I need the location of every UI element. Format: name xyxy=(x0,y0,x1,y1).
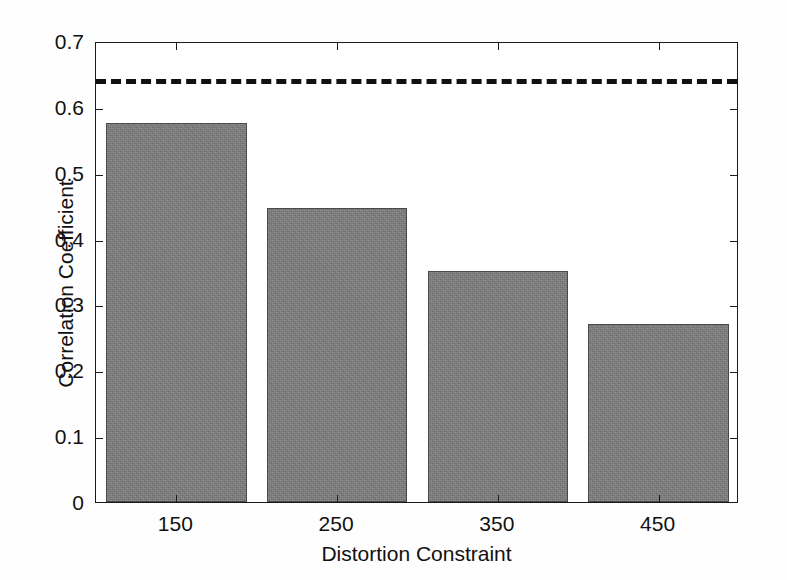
y-tick-0.1 xyxy=(96,438,103,439)
x-tick-top-350 xyxy=(498,43,499,50)
x-tick-top-150 xyxy=(176,43,177,50)
y-tick-0.4 xyxy=(96,241,103,242)
bar-350 xyxy=(428,271,569,502)
bar-150 xyxy=(106,123,247,502)
y-axis-label-0.7: 0.7 xyxy=(55,30,84,54)
x-tick-top-450 xyxy=(659,43,660,50)
threshold-reference-line xyxy=(96,79,737,84)
bar-250 xyxy=(267,208,408,502)
x-tick-350 xyxy=(498,495,499,502)
y-tick-right-0.5 xyxy=(730,175,737,176)
x-tick-top-250 xyxy=(337,43,338,50)
y-tick-right-0.2 xyxy=(730,372,737,373)
x-axis-label-150: 150 xyxy=(158,512,193,536)
plot-area xyxy=(95,42,738,503)
bar-450 xyxy=(588,324,729,502)
y-tick-0.6 xyxy=(96,109,103,110)
y-axis-title: Correlation Coefficient xyxy=(54,134,78,434)
y-tick-0.2 xyxy=(96,372,103,373)
x-axis-label-450: 450 xyxy=(640,512,675,536)
x-tick-150 xyxy=(176,495,177,502)
y-tick-right-0.4 xyxy=(730,241,737,242)
y-tick-right-0.3 xyxy=(730,306,737,307)
x-axis-tick-labels: 150250350450 xyxy=(95,512,738,540)
y-tick-right-0.1 xyxy=(730,438,737,439)
y-axis-label-0.6: 0.6 xyxy=(55,96,84,120)
y-axis-label-0: 0 xyxy=(72,491,84,515)
y-tick-0.3 xyxy=(96,306,103,307)
x-axis-label-250: 250 xyxy=(319,512,354,536)
figure-canvas: 00.10.20.30.40.50.60.7 Correlation Coeff… xyxy=(0,0,787,580)
y-tick-right-0.6 xyxy=(730,109,737,110)
x-axis-title: Distortion Constraint xyxy=(95,542,738,566)
y-tick-0.5 xyxy=(96,175,103,176)
x-axis-label-350: 350 xyxy=(479,512,514,536)
x-tick-250 xyxy=(337,495,338,502)
x-tick-450 xyxy=(659,495,660,502)
